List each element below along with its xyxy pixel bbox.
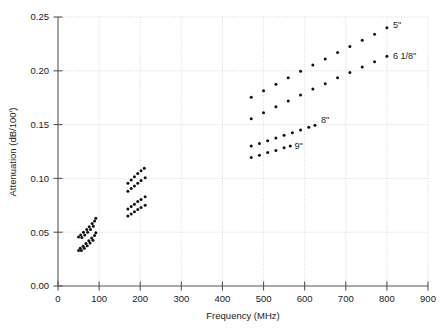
data-point <box>361 39 364 42</box>
data-point <box>136 208 139 211</box>
data-point <box>324 82 327 85</box>
data-point <box>348 45 351 48</box>
data-point <box>361 66 364 69</box>
data-point <box>299 128 302 131</box>
x-tick-label: 500 <box>256 293 272 304</box>
data-point <box>126 182 129 185</box>
x-tick-label: 300 <box>173 293 189 304</box>
data-point <box>82 231 85 234</box>
series-label: 6 1/8" <box>393 51 416 61</box>
data-point <box>83 233 86 236</box>
data-point <box>348 71 351 74</box>
data-point <box>92 225 95 228</box>
y-axis-title: Attenuation (dB/100') <box>7 108 18 197</box>
data-point <box>262 111 265 114</box>
data-point <box>144 204 147 207</box>
data-point <box>130 212 133 215</box>
data-point <box>258 154 261 157</box>
data-point <box>250 156 253 159</box>
attenuation-frequency-chart: 0.000.050.100.150.200.25 010020030040050… <box>0 0 448 331</box>
data-point <box>262 89 265 92</box>
x-tick-label: 100 <box>91 293 107 304</box>
data-point <box>311 88 314 91</box>
data-point <box>126 208 129 211</box>
data-point <box>313 124 316 127</box>
data-point <box>283 146 286 149</box>
data-point <box>130 205 133 208</box>
data-point <box>324 57 327 60</box>
x-tick-label: 0 <box>55 293 60 304</box>
data-point <box>311 63 314 66</box>
series-label: 9" <box>294 141 302 151</box>
data-point <box>80 236 83 239</box>
data-point <box>140 206 143 209</box>
data-point <box>291 131 294 134</box>
y-tick-label: 0.00 <box>31 280 50 291</box>
data-point <box>85 228 88 231</box>
data-point <box>140 179 143 182</box>
data-point <box>287 76 290 79</box>
data-point <box>94 217 97 220</box>
data-point <box>287 99 290 102</box>
data-point <box>385 26 388 29</box>
data-point <box>144 176 147 179</box>
series-label: 5" <box>393 20 401 30</box>
data-point <box>299 70 302 73</box>
data-point <box>130 179 133 182</box>
series-label: 8" <box>321 115 329 125</box>
data-point <box>385 55 388 58</box>
data-point <box>133 184 136 187</box>
y-tick-label: 0.05 <box>31 227 50 238</box>
data-point <box>86 231 89 234</box>
data-point <box>88 225 91 228</box>
y-tick-label: 0.10 <box>31 173 50 184</box>
data-point <box>143 167 146 170</box>
data-point <box>80 249 83 252</box>
data-point <box>91 222 94 225</box>
y-tick-label: 0.15 <box>31 119 50 130</box>
data-point <box>130 187 133 190</box>
data-point <box>283 134 286 137</box>
data-point <box>86 244 89 247</box>
data-point <box>258 142 261 145</box>
data-point <box>307 126 310 129</box>
chart-background <box>0 0 448 331</box>
x-tick-label: 900 <box>420 293 436 304</box>
data-point <box>83 247 86 250</box>
data-point <box>336 51 339 54</box>
data-point <box>94 231 97 234</box>
x-axis-title: Frequency (MHz) <box>206 310 279 321</box>
data-point <box>93 234 96 237</box>
data-point <box>140 198 143 201</box>
data-point <box>266 151 269 154</box>
data-point <box>126 190 129 193</box>
data-point <box>250 145 253 148</box>
x-tick-label: 800 <box>379 293 395 304</box>
y-tick-label: 0.25 <box>31 11 50 22</box>
data-point <box>133 175 136 178</box>
data-point <box>250 96 253 99</box>
data-point <box>140 169 143 172</box>
data-point <box>373 60 376 63</box>
data-point <box>299 94 302 97</box>
data-point <box>274 149 277 152</box>
y-tick-label: 0.20 <box>31 65 50 76</box>
data-point <box>89 228 92 231</box>
data-point <box>91 239 94 242</box>
data-point <box>79 233 82 236</box>
data-point <box>126 215 129 218</box>
data-point <box>136 200 139 203</box>
x-tick-label: 400 <box>215 293 231 304</box>
data-point <box>336 76 339 79</box>
data-point <box>274 137 277 140</box>
data-point <box>274 105 277 108</box>
x-tick-label: 700 <box>338 293 354 304</box>
data-point <box>250 117 253 120</box>
data-point <box>266 139 269 142</box>
data-point <box>89 241 92 244</box>
data-point <box>274 83 277 86</box>
data-point <box>136 182 139 185</box>
x-tick-label: 200 <box>132 293 148 304</box>
chart-figure: 0.000.050.100.150.200.25 010020030040050… <box>0 0 448 331</box>
data-point <box>93 219 96 222</box>
